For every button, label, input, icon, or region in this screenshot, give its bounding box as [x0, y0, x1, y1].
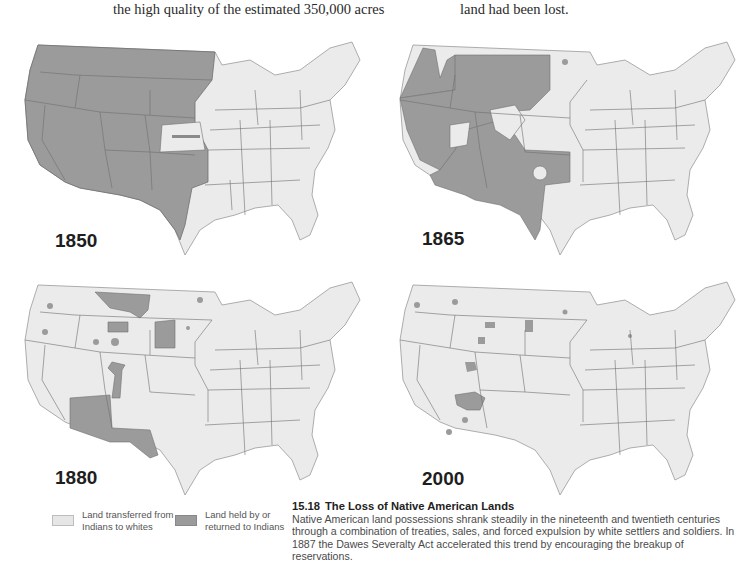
legend-swatch-dark — [175, 515, 197, 526]
figure-caption: 15.18The Loss of Native American Lands N… — [292, 500, 737, 563]
legend-item-transferred: Land transferred from Indians to whites — [52, 509, 173, 533]
map-year-label: 1880 — [55, 467, 97, 489]
legend-label: Land held by or returned to Indians — [205, 509, 284, 533]
figure-title: The Loss of Native American Lands — [325, 500, 514, 512]
map-year-label: 2000 — [422, 468, 464, 490]
map-1865: 1865 — [375, 30, 747, 270]
map-year-label: 1865 — [422, 228, 464, 250]
body-text-right: land had been lost. — [460, 0, 569, 18]
map-2000: 2000 — [375, 270, 747, 510]
body-text-left: the high quality of the estimated 350,00… — [113, 0, 384, 18]
figure-number: 15.18 — [292, 500, 320, 512]
legend-item-held: Land held by or returned to Indians — [175, 509, 284, 533]
caption-body: Native American land possessions shrank … — [292, 513, 737, 563]
legend-swatch-light — [52, 515, 74, 526]
map-1880: 1880 — [0, 270, 372, 510]
map-1850: 1850 — [0, 30, 372, 270]
legend-label: Land transferred from Indians to whites — [82, 509, 173, 533]
map-year-label: 1850 — [55, 230, 97, 252]
